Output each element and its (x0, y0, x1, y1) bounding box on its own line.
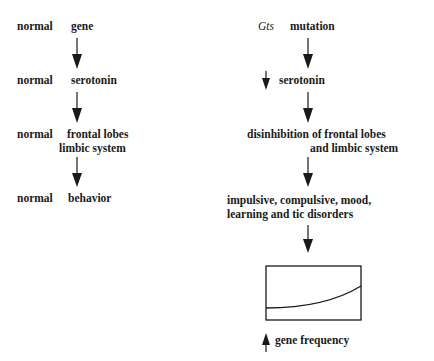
right-arrow-4-icon (303, 225, 313, 253)
left-arrow-1-icon (72, 38, 82, 69)
right-arrow-3-icon (303, 157, 313, 187)
left-arrow-2-icon (72, 92, 82, 123)
right-arrow-2-icon (303, 92, 313, 123)
up-arrow-icon (262, 333, 270, 352)
gene-frequency-graph (266, 266, 361, 320)
diagram-graphics (0, 0, 434, 361)
left-arrow-3-icon (72, 157, 82, 187)
right-arrow-1-icon (303, 38, 313, 69)
down-arrow-icon (262, 71, 270, 90)
